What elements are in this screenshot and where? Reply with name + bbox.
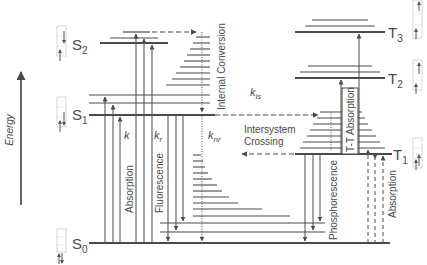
spin-box-t1 bbox=[413, 138, 422, 170]
isc-label-line1: Intersystem bbox=[244, 124, 296, 135]
absorption-label: Absorption bbox=[124, 165, 135, 213]
internal-conversion-label: Internal Conversion bbox=[216, 23, 227, 110]
ic-ladder-upper bbox=[166, 37, 210, 85]
spin-box-t2 bbox=[413, 60, 422, 94]
t1-absorption-arrows bbox=[368, 150, 383, 243]
level-s0 bbox=[89, 223, 390, 243]
spin-box-s0 bbox=[57, 229, 66, 264]
rate-k: k bbox=[124, 129, 130, 141]
jablonski-diagram: Energy bbox=[0, 0, 427, 265]
rate-kis: kis bbox=[250, 86, 261, 101]
energy-axis: Energy bbox=[4, 72, 21, 205]
spin-box-s2 bbox=[57, 26, 66, 61]
state-label-s0: S0 bbox=[72, 235, 88, 255]
state-label-t3: T3 bbox=[388, 24, 403, 44]
spin-box-s1 bbox=[57, 97, 66, 132]
level-s2 bbox=[100, 32, 168, 43]
state-label-s1: S1 bbox=[72, 106, 88, 126]
phosphorescence-label: Phosphorescence bbox=[328, 160, 339, 240]
level-t2 bbox=[295, 66, 385, 78]
spin-box-t3 bbox=[413, 0, 422, 39]
state-label-t2: T2 bbox=[388, 70, 403, 90]
isc-label-line2: Crossing bbox=[244, 136, 283, 147]
level-t3 bbox=[295, 20, 385, 32]
state-label-t1: T1 bbox=[393, 146, 408, 166]
ic-ladder-lower bbox=[193, 155, 290, 216]
rate-knr: knr bbox=[208, 129, 221, 144]
state-label-s2: S2 bbox=[72, 36, 88, 56]
rate-kr: kr bbox=[154, 129, 163, 144]
fluorescence-arrows bbox=[168, 116, 183, 241]
phosphorescence-arrows bbox=[305, 155, 320, 241]
tt-absorption-label: T-T Absorption bbox=[345, 87, 356, 152]
fluorescence-label: Fluorescence bbox=[154, 153, 165, 213]
t1-absorption-label: Absorption bbox=[387, 170, 398, 218]
energy-axis-label: Energy bbox=[4, 113, 15, 146]
